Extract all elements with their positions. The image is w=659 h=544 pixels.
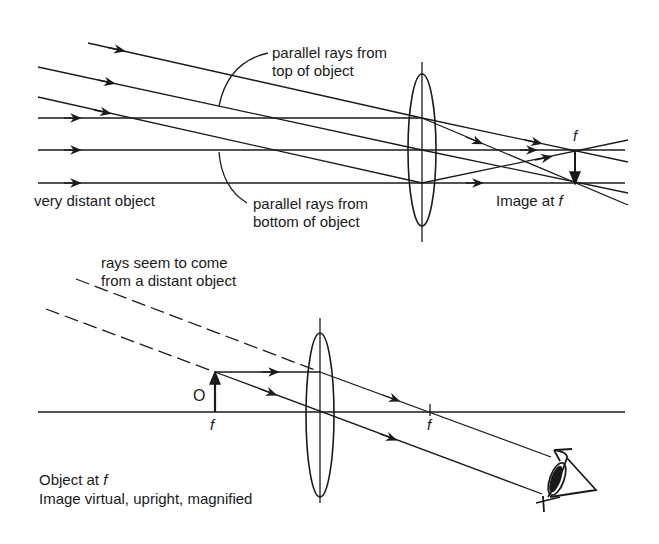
label-object-O: O bbox=[193, 387, 205, 405]
virtual-ray-top bbox=[76, 279, 320, 372]
brace-bottom bbox=[219, 152, 247, 203]
label-rays-seem-2: from a distant object bbox=[101, 272, 236, 290]
bottom-diagram bbox=[38, 279, 625, 512]
ray-s2-refracted bbox=[422, 150, 628, 193]
optics-diagram bbox=[0, 0, 659, 544]
label-image-at-f: Image at f bbox=[496, 192, 563, 210]
arrow-icon bbox=[98, 80, 110, 83]
label-image-text: Image at bbox=[496, 192, 559, 209]
ray-parallel-refracted bbox=[320, 372, 551, 457]
label-object-at-f: Object at f bbox=[39, 471, 107, 489]
label-focal-left: f bbox=[210, 416, 214, 434]
eye-icon bbox=[536, 449, 596, 512]
label-image-virtual: Image virtual, upright, magnified bbox=[39, 490, 252, 508]
arrow-icon bbox=[466, 137, 478, 142]
arrow-icon bbox=[260, 389, 272, 394]
label-bottom-rays-2: bottom of object bbox=[253, 213, 360, 231]
caption-object-text: Object at bbox=[39, 471, 103, 488]
label-top-rays-1: parallel rays from bbox=[272, 44, 387, 62]
label-distant-object: very distant object bbox=[34, 192, 155, 210]
arrow-icon bbox=[525, 140, 537, 143]
label-image-f: f bbox=[559, 192, 563, 209]
label-focal-right: f bbox=[427, 416, 431, 434]
virtual-ray-bottom bbox=[46, 309, 215, 372]
label-focal-top: f bbox=[573, 127, 577, 145]
ray-s2 bbox=[38, 67, 422, 150]
arrow-icon bbox=[108, 48, 120, 51]
brace-top bbox=[219, 53, 268, 106]
label-top-rays-2: top of object bbox=[272, 62, 354, 80]
caption-object-f: f bbox=[103, 471, 107, 488]
ray-s3-refracted bbox=[422, 140, 628, 183]
arrow-icon bbox=[383, 395, 395, 400]
label-bottom-rays-1: parallel rays from bbox=[253, 195, 368, 213]
arrow-icon bbox=[380, 434, 392, 439]
label-rays-seem-1: rays seem to come bbox=[101, 254, 228, 272]
